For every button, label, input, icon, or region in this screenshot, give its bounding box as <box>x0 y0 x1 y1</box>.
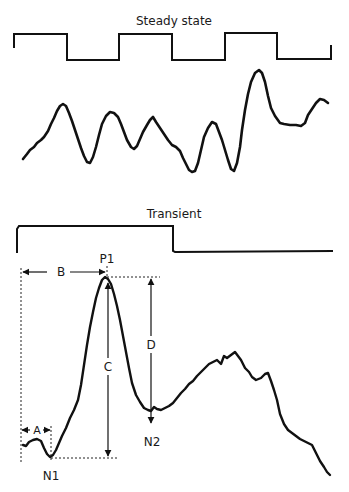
d-amplitude-measure: D <box>146 279 155 423</box>
d-label: D <box>146 338 155 352</box>
transient-response-waveform <box>23 277 330 475</box>
transient-stimulus-waveform <box>17 226 333 253</box>
vep-diagram: Steady state Transient B A C D <box>0 0 349 492</box>
n1-label: N1 <box>43 469 60 483</box>
guide-lines <box>21 266 160 462</box>
steady-state-title: Steady state <box>136 14 212 28</box>
p1-label: P1 <box>100 252 115 266</box>
c-amplitude-measure: C <box>104 283 112 456</box>
b-label: B <box>57 265 65 279</box>
a-label: A <box>33 424 41 437</box>
a-latency-measure: A <box>22 424 50 437</box>
n2-label: N2 <box>144 435 161 449</box>
steady-response-waveform <box>23 70 328 172</box>
c-label: C <box>104 360 112 374</box>
transient-title: Transient <box>146 207 202 221</box>
b-latency-measure: B <box>23 265 105 279</box>
steady-stimulus-waveform <box>14 33 331 60</box>
